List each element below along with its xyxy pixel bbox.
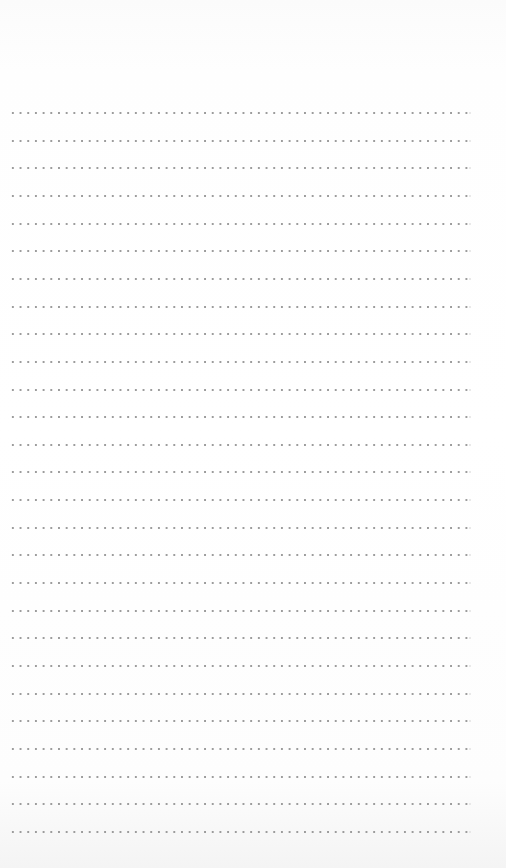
dotted-ruled-line: [9, 665, 469, 667]
dotted-ruled-line: [9, 444, 469, 446]
dotted-ruled-line: [9, 278, 469, 280]
dotted-ruled-line: [9, 527, 469, 529]
dotted-ruled-line: [9, 389, 469, 391]
ruled-lines-container: [0, 0, 506, 868]
dotted-ruled-line: [9, 112, 469, 114]
dotted-ruled-line: [9, 195, 469, 197]
dotted-ruled-line: [9, 776, 469, 778]
dotted-ruled-line: [9, 306, 469, 308]
dotted-ruled-line: [9, 748, 469, 750]
dotted-ruled-line: [9, 471, 469, 473]
dotted-ruled-line: [9, 416, 469, 418]
dotted-ruled-line: [9, 831, 469, 833]
dotted-ruled-line: [9, 167, 469, 169]
dotted-ruled-line: [9, 361, 469, 363]
dotted-ruled-line: [9, 499, 469, 501]
dotted-ruled-line: [9, 720, 469, 722]
dotted-ruled-line: [9, 250, 469, 252]
dotted-ruled-line: [9, 803, 469, 805]
dotted-ruled-line: [9, 637, 469, 639]
dotted-ruled-line: [9, 582, 469, 584]
dotted-ruled-line: [9, 610, 469, 612]
dotted-ruled-line: [9, 140, 469, 142]
dotted-ruled-line: [9, 693, 469, 695]
dotted-ruled-line: [9, 554, 469, 556]
notepad-page: [0, 0, 506, 868]
dotted-ruled-line: [9, 333, 469, 335]
dotted-ruled-line: [9, 223, 469, 225]
